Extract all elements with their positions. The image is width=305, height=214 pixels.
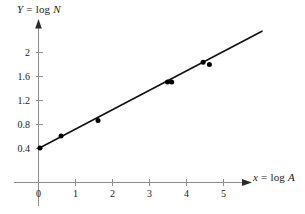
y-axis-label-eq: =	[23, 3, 35, 15]
x-tick-label: 5	[217, 188, 231, 199]
x-axis-label-eq: =	[258, 171, 270, 183]
data-point	[201, 60, 206, 65]
chart-figure: Y = log N x = log A 0.4 0.8 1.2 1.6 2 0 …	[0, 0, 305, 214]
x-tick-label: 2	[106, 188, 120, 199]
x-axis-label-arg: A	[288, 171, 295, 183]
data-point	[96, 118, 101, 123]
y-tick-label: 2	[8, 47, 30, 58]
y-tick-label: 0.8	[8, 119, 30, 130]
data-points	[37, 60, 212, 151]
x-tick-label: 1	[69, 188, 83, 199]
data-point	[207, 62, 212, 67]
y-axis-label-fn: log	[36, 3, 54, 15]
x-axis-label: x = log A	[253, 171, 295, 183]
y-axis	[35, 19, 42, 206]
x-tick-label: 3	[143, 188, 157, 199]
data-point	[169, 80, 174, 85]
y-axis-label: Y = log N	[17, 3, 61, 15]
y-tick-label: 1.2	[8, 95, 30, 106]
data-point	[37, 146, 42, 151]
x-axis-label-fn: log	[270, 171, 288, 183]
y-axis-ticks	[36, 53, 43, 149]
y-axis-label-arg: N	[53, 3, 61, 15]
x-tick-label: 0	[32, 188, 46, 199]
x-axis	[14, 179, 252, 186]
x-tick-label: 4	[180, 188, 194, 199]
data-point	[59, 134, 64, 139]
y-tick-label: 1.6	[8, 71, 30, 82]
y-tick-label: 0.4	[8, 143, 30, 154]
regression-line	[39, 31, 262, 148]
